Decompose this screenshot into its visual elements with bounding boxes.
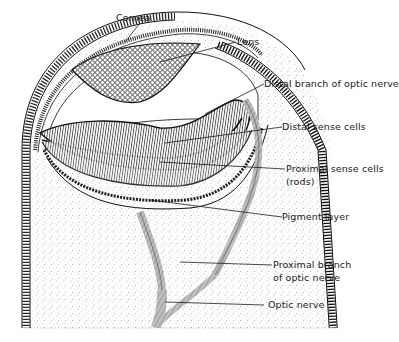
label-lens: Lens [237,36,259,47]
label-proximal-sense-cells: Proximal sense cells [286,163,384,174]
label-optic-nerve: Optic nerve [268,299,324,310]
label-distal-sense-cells: Distal sense cells [282,121,366,132]
label-cornea: Cornea [116,12,150,23]
label-proximal-branch-optic-nerve: Proximal branch [273,259,351,270]
label-proximal-sense-cells-rods: (rods) [286,176,315,187]
label-distal-branch-optic-nerve: Distal branch of optic nerve [264,78,399,89]
label-pigment-layer: Pigment layer [282,211,349,222]
label-proximal-branch-optic-nerve-2: of optic nerve [273,272,340,283]
